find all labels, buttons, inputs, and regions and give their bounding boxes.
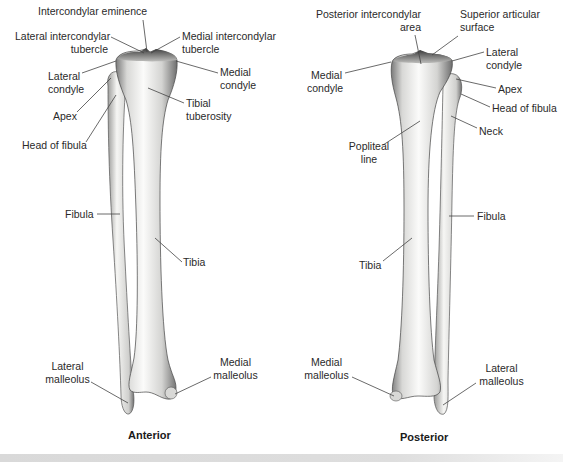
leader-line-posterior-medial-condyle [345,62,391,73]
anterior-view-bones [108,48,178,414]
leader-line-posterior-medial-malleolus [352,377,394,396]
label-anterior-lateral-malleolus: Lateral malleolus [45,360,90,386]
leader-line-anterior-medial-intercondylar-tubercle [151,37,180,53]
fibula-anterior [108,72,134,414]
label-anterior-tibia: Tibia [183,256,205,269]
label-posterior-head-of-fibula: Head of fibula [492,102,557,115]
label-anterior-tibial-tuberosity: Tibial tuberosity [186,97,232,123]
label-anterior-lateral-intercondylar-tubercle: Lateral intercondylar tubercle [15,30,108,56]
label-anterior-medial-intercondylar-tubercle: Medial intercondylar tubercle [182,30,276,56]
leader-line-anterior-lateral-intercondylar-tubercle [111,37,144,53]
leader-line-posterior-lateral-condyle [452,52,484,61]
label-anterior-fibula: Fibula [65,208,94,221]
fibula-posterior [434,74,462,415]
leader-line-posterior-superior-articular-surface [432,36,458,55]
label-posterior-fibula: Fibula [477,210,506,223]
caption-anterior: Anterior [128,429,171,441]
leader-line-anterior-lateral-condyle [82,61,116,73]
label-anterior-lateral-condyle: Lateral condyle [48,70,80,96]
label-posterior-apex: Apex [498,83,522,96]
label-anterior-head-of-fibula: Head of fibula [22,139,87,152]
bones-illustration [0,0,563,462]
label-posterior-tibia: Tibia [359,259,381,272]
label-posterior-lateral-condyle: Lateral condyle [486,46,522,72]
medial-malleolus-posterior-shape [390,391,402,401]
tibial-plateau-posterior [393,50,452,63]
posterior-view-bones [390,50,462,414]
label-posterior-popliteal-line: Popliteal line [345,140,393,166]
label-posterior-posterior-intercondylar-area: Posterior intercondylar area [311,8,421,34]
label-anterior-medial-malleolus: Medial malleolus [213,356,258,382]
label-posterior-medial-malleolus: Medial malleolus [304,356,349,382]
leader-line-posterior-head-of-fibula [461,94,490,107]
label-anterior-medial-condyle: Medial condyle [220,66,256,92]
label-anterior-intercondylar-eminence: Intercondylar eminence [38,5,147,18]
label-posterior-medial-condyle: Medial condyle [307,69,342,95]
medial-malleolus-anterior-shape [165,387,177,399]
leader-line-anterior-medial-malleolus [175,377,211,394]
caption-posterior: Posterior [400,431,448,443]
label-posterior-lateral-malleolus: Lateral malleolus [479,362,524,388]
label-posterior-neck: Neck [479,125,503,138]
label-anterior-apex: Apex [53,110,77,123]
bottom-band [0,454,563,462]
tibia-fibula-figure: Intercondylar eminenceLateral intercondy… [0,0,563,462]
leader-line-anterior-intercondylar-eminence [143,20,147,52]
label-posterior-superior-articular-surface: Superior articular surface [460,8,540,34]
leader-line-anterior-medial-condyle [176,61,218,73]
